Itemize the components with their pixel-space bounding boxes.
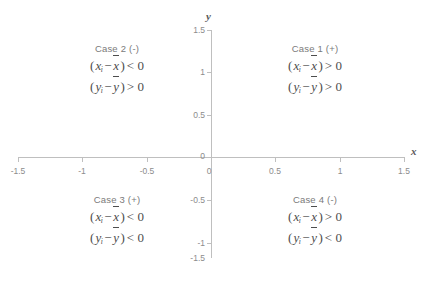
minus-sign: − [103,230,112,245]
y-tick-mark [207,30,211,31]
minus-sign: − [301,79,310,94]
x-tick-label: -0.5 [140,166,155,176]
minus-sign: − [103,58,112,73]
y-tick-label: 0.5 [193,110,205,120]
quadrant-3-y-condition: (yi−y)< 0 [42,228,192,249]
covariance-quadrant-figure: -1.5 -1 -0.5 0 0.5 1 1.5 1.5 1 0.5 0 -0.… [0,0,427,286]
minus-sign: − [103,79,112,94]
index-subscript: i [299,237,301,246]
x-relation: > 0 [324,209,343,224]
quadrant-3-annotation: Case 3 (+) (xi−x)< 0 (yi−y)< 0 [42,193,192,249]
paren-close: ) [119,79,125,94]
quadrant-4-title: Case 4 (-) [240,193,390,207]
y-tick-mark [207,243,211,244]
y-axis-line [211,30,212,258]
y-tick-label: -0.5 [190,195,205,205]
x-tick-mark [211,158,212,162]
quadrant-4-annotation: Case 4 (-) (xi−x)> 0 (yi−y)< 0 [240,193,390,249]
index-subscript: i [101,216,103,225]
y-relation: > 0 [126,79,145,94]
x-mean-overbar: x [311,56,318,75]
y-tick-mark [207,115,211,116]
x-relation: < 0 [126,58,145,73]
quadrant-1-x-condition: (xi−x)> 0 [240,56,390,77]
quadrant-2-annotation: Case 2 (-) (xi−x)< 0 (yi−y)> 0 [42,42,192,98]
paren-close: ) [317,230,323,245]
y-tick-label: 1.5 [193,25,205,35]
quadrant-1-annotation: Case 1 (+) (xi−x)> 0 (yi−y)> 0 [240,42,390,98]
x-mean-overbar: x [113,56,120,75]
paren-close: ) [317,209,323,224]
x-tick-label: -1.5 [11,166,26,176]
y-relation: < 0 [126,230,145,245]
quadrant-3-title: Case 3 (+) [42,193,192,207]
y-tick-label: -1 [197,238,205,248]
y-mean-overbar: y [113,228,120,247]
paren-close: ) [119,230,125,245]
index-subscript: i [299,86,301,95]
minus-sign: − [301,209,310,224]
x-tick-label: 1.5 [398,166,410,176]
x-tick-mark [404,158,405,162]
quadrant-2-title: Case 2 (-) [42,42,192,56]
minus-sign: − [301,58,310,73]
quadrant-4-x-condition: (xi−x)> 0 [240,207,390,228]
y-relation: > 0 [324,79,343,94]
x-mean-overbar: x [113,207,120,226]
x-axis-label: x [411,145,417,157]
index-subscript: i [299,216,301,225]
paren-close: ) [119,209,125,224]
paren-close: ) [317,79,323,94]
y-tick-label: 1 [200,67,205,77]
index-subscript: i [101,237,103,246]
x-tick-mark [82,158,83,162]
y-mean-overbar: y [311,228,318,247]
paren-close: ) [119,58,125,73]
y-tick-label: -1.5 [190,253,205,263]
quadrant-4-y-condition: (yi−y)< 0 [240,228,390,249]
quadrant-3-x-condition: (xi−x)< 0 [42,207,192,228]
quadrant-2-y-condition: (yi−y)> 0 [42,77,192,98]
x-relation: > 0 [324,58,343,73]
quadrant-1-title: Case 1 (+) [240,42,390,56]
x-tick-mark [18,158,19,162]
minus-sign: − [103,209,112,224]
y-tick-mark [207,200,211,201]
x-tick-mark [147,158,148,162]
x-tick-mark [275,158,276,162]
quadrant-2-x-condition: (xi−x)< 0 [42,56,192,77]
quadrant-1-y-condition: (yi−y)> 0 [240,77,390,98]
y-tick-mark [207,72,211,73]
minus-sign: − [301,230,310,245]
x-tick-mark [340,158,341,162]
y-axis-label: y [206,10,211,22]
x-tick-label-origin: 0 [207,166,212,176]
paren-close: ) [317,58,323,73]
y-tick-label-origin: 0 [200,151,205,161]
index-subscript: i [299,65,301,74]
x-tick-label: 1 [338,166,343,176]
y-mean-overbar: y [311,77,318,96]
index-subscript: i [101,65,103,74]
y-mean-overbar: y [113,77,120,96]
x-relation: < 0 [126,209,145,224]
x-tick-label: -1 [78,166,86,176]
index-subscript: i [101,86,103,95]
x-mean-overbar: x [311,207,318,226]
y-relation: < 0 [324,230,343,245]
x-tick-label: 0.5 [269,166,281,176]
